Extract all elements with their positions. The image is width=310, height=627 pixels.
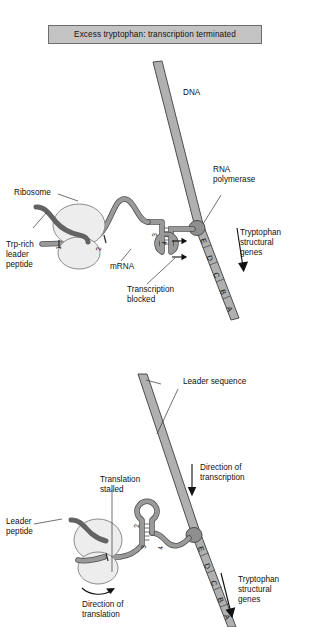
label-rna-polymerase: RNA polymerase [213,165,255,185]
label-trp-rich-leader-peptide: Trp-rich leader peptide [6,240,34,270]
label-leader-peptide: Leader peptide [6,517,33,537]
label-direction-of-translation: Direction of translation [82,600,123,620]
label-transcription-blocked: Transcription blocked [127,285,174,305]
mrna-region-3-bottom: 3 [140,545,147,549]
mrna-strand-bottom [152,533,189,546]
mrna-region-4-top: 4 [161,241,168,245]
top-panel-graphics: E D C B A 3 4 1 [33,61,247,320]
mrna-region-2-top: 2 [95,247,102,251]
mrna-region-2-tick-top [104,235,106,243]
label-tryptophan-structural-genes-bottom: Tryptophan structural genes [238,575,279,605]
dna-strand-bottom [138,374,200,535]
label-leader-sequence: Leader sequence [183,377,246,387]
hairpin-base-pairs-bottom [145,524,150,540]
mrna-region-2-bottom: 2 [133,524,140,528]
diagram-canvas: E D C B A 3 4 1 [0,0,310,627]
mrna-region-3-top: 3 [151,233,158,237]
label-translation-stalled: Translation stalled [100,475,140,495]
label-direction-of-transcription: Direction of transcription [200,463,245,483]
label-tryptophan-structural-genes-top: Tryptophan structural genes [240,228,281,258]
dna-strand-top [153,61,203,227]
transcription-direction-arrow-bottom [189,464,196,495]
ribosome-top-small-subunit [58,237,100,269]
mrna-region-1-top: 1 [55,246,62,250]
label-ribosome: Ribosome [14,188,51,198]
bottom-panel-graphics: E D C B A 2 3 4 [34,374,236,627]
label-mrna: mRNA [110,262,134,272]
label-dna: DNA [183,88,200,98]
mrna-region-4-bottom: 4 [157,546,164,550]
